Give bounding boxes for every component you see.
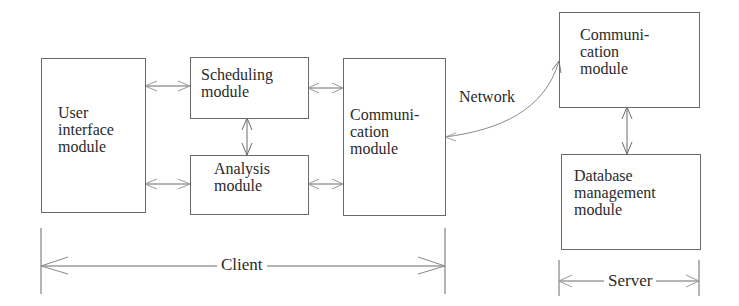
arrow-ui-analysis [145,179,190,189]
label-line: module [58,138,114,155]
label-line: interface [58,121,114,138]
user-interface-module-label: Userinterfacemodule [58,104,114,155]
label-line: module [580,60,649,77]
label-line: Database [574,167,656,184]
label-line: cation [580,43,649,60]
label-line: Analysis [214,160,270,177]
client-label: Client [217,256,267,274]
client-communication-module-label: Communi-cationmodule [350,106,419,157]
label-line: management [574,184,656,201]
arrow-scheduling-analysis [242,118,252,155]
label-line: module [214,177,270,194]
arrow-scheduling-communication [308,83,343,93]
arrow-analysis-communication [308,179,343,189]
label-line: Scheduling [201,66,273,83]
analysis-module-label: Analysismodule [214,160,270,194]
label-line: cation [350,123,419,140]
arrow-ui-scheduling [145,81,190,91]
label-line: Communi- [350,106,419,123]
label-line: module [574,201,656,218]
server-label: Server [604,272,656,290]
database-management-module-label: Databasemanagementmodule [574,167,656,218]
server-communication-module-label: Communi-cationmodule [580,26,649,77]
label-line: module [350,140,419,157]
network-label: Network [459,88,515,105]
label-line: Communi- [580,26,649,43]
arrow-server-communication-database [622,107,632,154]
label-line: User [58,104,114,121]
scheduling-module-label: Schedulingmodule [201,66,273,100]
label-line: module [201,83,273,100]
